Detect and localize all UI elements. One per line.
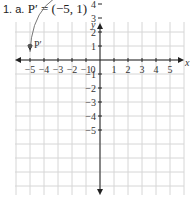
- x-tick-label: −5: [25, 64, 36, 75]
- x-tick-label: 4: [154, 64, 159, 75]
- x-axis-label: x: [184, 57, 190, 68]
- coordinate-plane: −5−4−3−2−1012345−5−4−3−2−112345xyPP′: [0, 0, 191, 198]
- y-tick-label: −3: [85, 97, 96, 108]
- y-tick-label: −5: [85, 125, 96, 136]
- y-tick-label: 4: [91, 0, 96, 10]
- x-tick-label: −2: [67, 64, 78, 75]
- y-tick-label: −4: [85, 111, 96, 122]
- y-tick-label: −1: [85, 69, 96, 80]
- point-p-prime: [28, 44, 33, 49]
- x-tick-label: −3: [53, 64, 64, 75]
- x-tick-label: 3: [140, 64, 145, 75]
- y-arrow-down-icon: [97, 189, 103, 195]
- x-tick-label: −4: [39, 64, 50, 75]
- y-tick-label: −2: [85, 83, 96, 94]
- point-label: P′: [34, 39, 42, 50]
- x-tick-label: 5: [168, 64, 173, 75]
- x-arrow-icon: [178, 57, 184, 63]
- x-tick-label: 2: [126, 64, 131, 75]
- y-arrow-icon: [97, 23, 103, 29]
- x-tick-label: 1: [112, 64, 117, 75]
- y-axis-label: y: [90, 19, 96, 30]
- y-tick-label: 1: [91, 41, 96, 52]
